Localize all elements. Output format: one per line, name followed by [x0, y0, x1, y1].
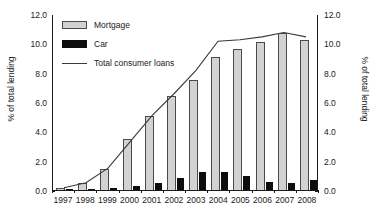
y-tick-label-right-5: 10.0 [324, 40, 350, 48]
x-tick-label-2008: 2008 [287, 195, 327, 205]
legend-item-car: Car [62, 37, 174, 51]
x-tick-mark-end [318, 190, 319, 193]
chart-figure: % of total lending % of total lending 0.… [0, 0, 377, 218]
y-tick-label-right-4: 8.0 [324, 70, 350, 78]
y-tick-label-right-1: 2.0 [324, 158, 350, 166]
y-tick-label-right-0: 0.0 [324, 187, 350, 195]
y-tick-label-left-3: 6.0 [21, 99, 47, 107]
line-swatch-icon [62, 59, 87, 67]
y-tick-label-left-6: 12.0 [21, 11, 47, 19]
y-tick-label-right-3: 6.0 [324, 99, 350, 107]
y-tick-label-left-2: 4.0 [21, 128, 47, 136]
y-tick-label-left-0: 0.0 [21, 187, 47, 195]
legend-item-mortgage: Mortgage [62, 18, 174, 32]
y-tick-label-right-6: 12.0 [324, 11, 350, 19]
legend-label-total-consumer-loans: Total consumer loans [94, 58, 174, 68]
y-tick-label-left-5: 10.0 [21, 40, 47, 48]
y-tick-label-left-1: 2.0 [21, 158, 47, 166]
bar-black-swatch-icon [62, 40, 87, 48]
chart-legend: Mortgage Car Total consumer loans [62, 18, 174, 75]
legend-item-total-consumer-loans: Total consumer loans [62, 56, 174, 70]
y-tick-label-right-2: 4.0 [324, 128, 350, 136]
y-axis-label-right: % of total lending [360, 41, 370, 137]
bar-gray-swatch-icon [62, 21, 87, 29]
y-tick-label-left-4: 8.0 [21, 70, 47, 78]
legend-label-car: Car [94, 39, 108, 49]
y-axis-label-left: % of total lending [6, 41, 16, 137]
legend-label-mortgage: Mortgage [94, 20, 130, 30]
